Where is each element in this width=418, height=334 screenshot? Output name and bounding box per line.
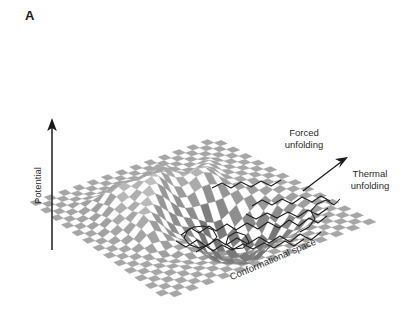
mesh-cell [250,166,264,172]
mesh-cell [174,277,187,284]
mesh-cell [69,197,82,202]
mesh-cell [332,224,346,230]
mesh-cell [316,230,330,236]
mesh-cell [58,190,71,196]
potential-axis-arrow [47,118,57,250]
mesh-cell [270,205,284,222]
mesh-cell [190,271,203,278]
mesh-cell [142,254,155,261]
mesh-cell [129,253,142,260]
annotation-forced-line2: unfolding [268,139,340,151]
mesh-cell [184,156,197,162]
mesh-cell [214,219,227,239]
mesh-cell [103,252,116,259]
mesh-cell [101,175,114,181]
mesh-cell [182,260,195,265]
mesh-cell [183,162,196,168]
mesh-cell [185,150,198,156]
mesh-cell [179,265,192,270]
mesh-cell [171,250,184,258]
mesh-cell [114,202,127,213]
mesh-cell [158,155,171,161]
mesh-cell [101,206,114,217]
mesh-cell [248,172,262,178]
mesh-cell [53,208,66,214]
mesh-cell [116,191,129,202]
mesh-cell [318,224,332,230]
mesh-cell [156,290,169,297]
mesh-cell [187,145,200,151]
mesh-cell [201,140,214,146]
mesh-cell [247,177,261,184]
mesh-cell [61,222,74,228]
mesh-cell [91,203,104,213]
mesh-cell [129,189,142,201]
mesh-cell [212,152,225,158]
energy-landscape-surface [0,0,418,334]
mesh-cell [200,203,213,222]
mesh-cell [147,230,160,243]
mesh-cell [177,270,190,277]
mesh-cell [80,200,93,207]
mesh-cell [73,185,86,191]
mesh-cell [72,230,85,236]
mesh-cell [166,264,179,269]
mesh-cell [65,208,78,215]
mesh-cell [320,218,334,224]
mesh-cell [171,155,184,161]
mesh-cell [225,153,238,159]
mesh-cell [227,227,241,247]
mesh-cell [108,236,121,245]
mesh-cell [236,165,250,170]
mesh-cell [276,173,290,179]
mesh-cell [84,191,97,196]
mesh-cell [274,179,288,185]
mesh-cell [95,237,108,244]
mesh-cell [263,166,277,172]
mesh-cell [349,212,363,218]
mesh-cell [85,230,98,237]
mesh-cell [123,222,136,234]
mesh-cell [44,195,56,201]
mesh-cell [335,212,349,218]
mesh-cell [55,202,68,208]
mesh-cell [114,260,127,267]
mesh-cell [235,170,249,175]
mesh-cell [282,215,296,230]
mesh-cell [128,171,141,177]
mesh-cell [63,215,76,222]
mesh-cell [193,265,206,271]
mesh-cell [195,261,208,266]
mesh-cell [233,176,246,182]
mesh-cell [201,278,214,285]
mesh-cell [330,231,344,237]
mesh-cell [114,176,127,182]
mesh-cell [259,186,273,196]
mesh-cell [148,275,161,282]
mesh-cell [221,169,234,174]
mesh-cell [145,243,158,253]
mesh-cell [176,177,189,187]
mesh-cell [237,159,250,165]
mesh-cell [158,250,171,258]
mesh-cell [135,275,148,282]
mesh-cell [321,212,335,218]
mesh-cell [87,180,100,186]
mesh-cell [127,260,140,267]
mesh-cell [140,261,153,268]
mesh-cell [223,164,236,169]
mesh-cell [172,150,185,156]
mesh-cell [362,219,376,225]
mesh-cell [42,201,54,207]
mesh-cell [145,282,158,289]
mesh-cell [130,165,143,171]
mesh-cell [262,172,276,178]
mesh-cell [348,218,362,224]
mesh-cell [184,252,197,260]
mesh-cell [82,237,95,243]
mesh-cell [172,284,185,291]
mesh-cell [164,269,177,276]
mesh-cell [144,176,157,185]
mesh-cell [125,211,138,222]
mesh-cell [158,283,171,290]
